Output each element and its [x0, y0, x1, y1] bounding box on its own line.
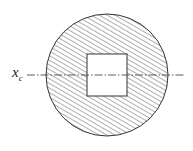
cross-section-figure [0, 0, 193, 151]
axis-label-main: x [12, 64, 19, 80]
axis-label-subscript: c [19, 73, 23, 83]
square-hole [87, 54, 127, 96]
axis-label: xc [12, 64, 23, 83]
